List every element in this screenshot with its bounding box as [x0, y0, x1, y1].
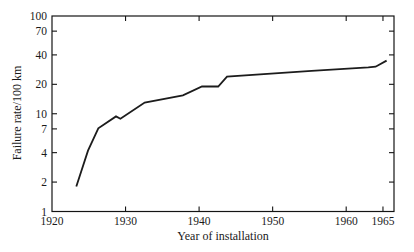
x-axis-title: Year of installation: [52, 229, 394, 244]
y-tick-label: 2: [41, 176, 47, 188]
x-tick-label: 1960: [335, 215, 358, 227]
x-tick-label: 1965: [371, 215, 394, 227]
y-tick-label: 70: [36, 25, 48, 37]
plot-frame: [52, 16, 394, 212]
chart-canvas: 192019301940195019601965124710204070100: [0, 0, 414, 252]
figure: 192019301940195019601965124710204070100 …: [0, 0, 414, 252]
y-tick-label: 100: [30, 10, 48, 22]
y-tick-label: 40: [36, 49, 48, 61]
y-tick-label: 20: [36, 78, 48, 90]
x-tick-label: 1950: [261, 215, 284, 227]
data-line-failure-rate-vs-installation-year: [76, 61, 386, 187]
y-axis-title: Failure rate/100 km: [10, 66, 25, 161]
y-tick-label: 7: [41, 123, 47, 135]
y-tick-label: 4: [41, 147, 47, 159]
y-tick-label: 10: [36, 108, 48, 120]
y-tick-label: 1: [41, 206, 47, 218]
x-tick-label: 1940: [188, 215, 211, 227]
x-tick-label: 1930: [114, 215, 137, 227]
